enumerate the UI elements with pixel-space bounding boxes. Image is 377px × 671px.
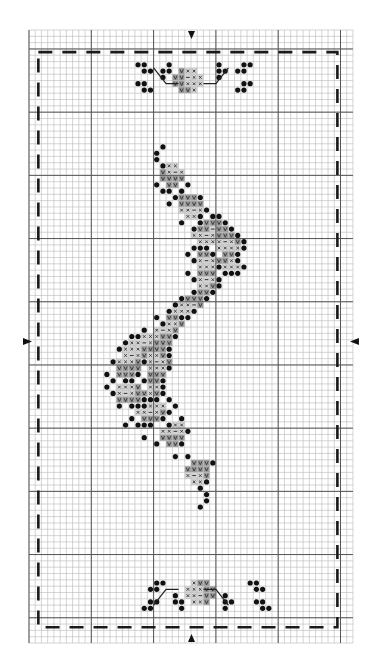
dot-stitch	[179, 416, 184, 421]
dot-stitch	[117, 347, 122, 352]
dot-stitch	[241, 239, 246, 244]
dot-stitch	[135, 62, 140, 67]
dot-stitch	[198, 214, 203, 219]
dot-stitch	[198, 245, 203, 250]
dot-stitch	[191, 277, 196, 282]
dot-stitch	[142, 422, 147, 427]
dot-stitch	[191, 290, 196, 295]
dot-stitch	[148, 599, 153, 604]
dot-stitch	[142, 606, 147, 611]
dot-stitch	[179, 296, 184, 301]
dot-stitch	[241, 87, 246, 92]
center-arrow-top-icon	[188, 31, 195, 39]
dot-stitch	[185, 454, 190, 459]
dot-stitch	[191, 245, 196, 250]
dot-stitch	[235, 233, 240, 238]
dot-stitch	[235, 271, 240, 276]
pattern-canvas	[0, 0, 377, 671]
dot-stitch	[216, 264, 221, 269]
dot-stitch	[142, 68, 147, 73]
center-arrow-left-icon	[23, 338, 32, 345]
dot-stitch	[179, 220, 184, 225]
dot-stitch	[198, 486, 203, 491]
dot-stitch	[198, 505, 203, 510]
dot-stitch	[160, 321, 165, 326]
dot-stitch	[198, 195, 203, 200]
dot-stitch	[148, 397, 153, 402]
dot-stitch	[154, 580, 159, 585]
dot-stitch	[123, 422, 128, 427]
dot-stitch	[204, 479, 209, 484]
dot-stitch	[154, 315, 159, 320]
dot-stitch	[223, 593, 228, 598]
dot-stitch	[179, 315, 184, 320]
dot-stitch	[179, 599, 184, 604]
dot-stitch	[167, 62, 172, 67]
dot-stitch	[135, 372, 140, 377]
dot-stitch	[142, 397, 147, 402]
dot-stitch	[160, 144, 165, 149]
dot-stitch	[142, 81, 147, 86]
dot-stitch	[260, 606, 265, 611]
dot-stitch	[173, 334, 178, 339]
dot-stitch	[160, 391, 165, 396]
dot-stitch	[185, 182, 190, 187]
dot-stitch	[148, 68, 153, 73]
dot-stitch	[167, 397, 172, 402]
dot-stitch	[229, 271, 234, 276]
dot-stitch	[154, 441, 159, 446]
dot-stitch	[129, 334, 134, 339]
dot-stitch	[167, 189, 172, 194]
dot-stitch	[123, 340, 128, 345]
dot-stitch	[185, 315, 190, 320]
dot-stitch	[185, 252, 190, 257]
dot-stitch	[142, 403, 147, 408]
dot-stitch	[167, 68, 172, 73]
dot-stitch	[210, 252, 215, 257]
dot-stitch	[216, 283, 221, 288]
dot-stitch	[179, 189, 184, 194]
dot-stitch	[241, 62, 246, 67]
dot-stitch	[123, 378, 128, 383]
dot-stitch	[160, 384, 165, 389]
dot-stitch	[241, 68, 246, 73]
dot-stitch	[135, 334, 140, 339]
dot-stitch	[173, 302, 178, 307]
dot-stitch	[142, 378, 147, 383]
dot-stitch	[248, 580, 253, 585]
dot-stitch	[248, 62, 253, 67]
dot-stitch	[185, 429, 190, 434]
dot-stitch	[117, 403, 122, 408]
dot-stitch	[160, 416, 165, 421]
dot-stitch	[173, 593, 178, 598]
dot-stitch	[254, 587, 259, 592]
dot-stitch	[179, 606, 184, 611]
dot-stitch	[179, 441, 184, 446]
dot-stitch	[167, 422, 172, 427]
dot-stitch	[129, 416, 134, 421]
dot-stitch	[111, 378, 116, 383]
dot-stitch	[235, 258, 240, 263]
dot-stitch	[104, 384, 109, 389]
dot-stitch	[148, 422, 153, 427]
dot-stitch	[198, 220, 203, 225]
center-arrow-right-icon	[350, 338, 359, 345]
dot-stitch	[204, 245, 209, 250]
dot-stitch	[154, 587, 159, 592]
dot-stitch	[148, 87, 153, 92]
dot-stitch	[191, 309, 196, 314]
dot-stitch	[223, 271, 228, 276]
dot-stitch	[210, 460, 215, 465]
dot-stitch	[266, 606, 271, 611]
dot-stitch	[142, 62, 147, 67]
dot-stitch	[204, 296, 209, 301]
dot-stitch	[173, 454, 178, 459]
center-arrow-bottom-icon	[188, 634, 195, 642]
dot-stitch	[129, 403, 134, 408]
stitch-symbols	[104, 62, 271, 611]
dot-stitch	[210, 214, 215, 219]
dot-stitch	[142, 359, 147, 364]
dot-stitch	[148, 587, 153, 592]
dot-stitch	[241, 264, 246, 269]
dot-stitch	[129, 378, 134, 383]
